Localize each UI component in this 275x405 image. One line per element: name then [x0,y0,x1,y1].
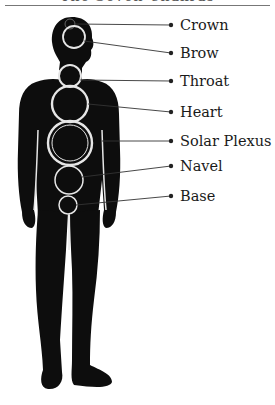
label-throat: Throat [180,73,229,89]
label-solar-plexus: Solar Plexus [180,133,271,149]
human-silhouette-figure [0,0,275,405]
label-crown: Crown [180,17,229,33]
label-navel: Navel [180,158,223,174]
label-base: Base [180,188,215,204]
label-brow: Brow [180,45,219,61]
leader-dots [169,23,173,198]
label-heart: Heart [180,104,223,120]
